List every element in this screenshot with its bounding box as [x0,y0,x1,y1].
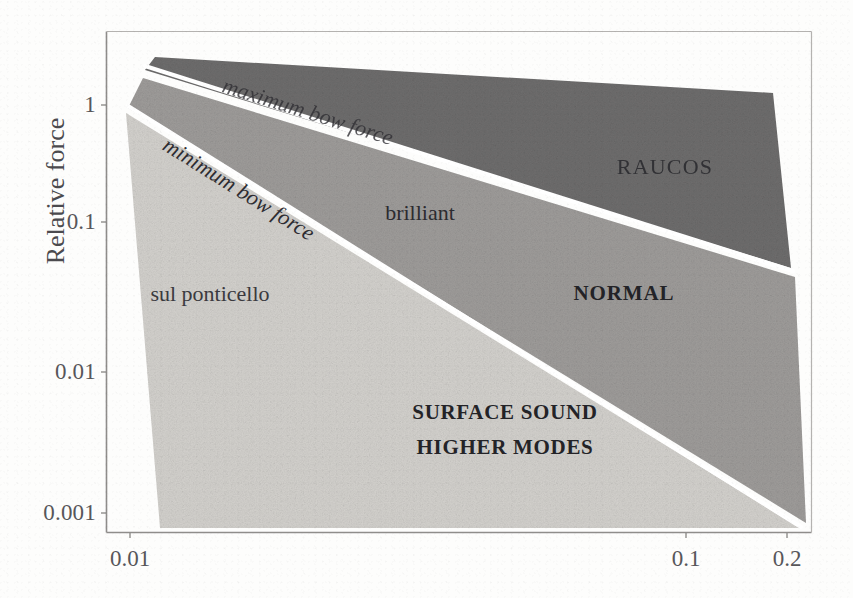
y-axis-label: Relative force [41,91,71,291]
x-tick-label-0.1: 0.1 [636,546,736,572]
y-tick-marks [101,105,106,513]
region-label-surface-sound: SURFACE SOUND [412,400,597,425]
x-tick-label-0.01: 0.01 [70,546,190,572]
x-tick-label-0.2: 0.2 [737,546,837,572]
y-tick-label-0.1: 0.1 [24,209,96,235]
y-tick-label-1: 1 [24,92,96,118]
region-label-higher-modes: HIGHER MODES [416,435,593,460]
plot-canvas [0,0,853,598]
region-label-raucos: RAUCOS [617,154,713,180]
y-tick-label-0.01: 0.01 [24,359,96,385]
region-label-normal: NORMAL [573,281,674,306]
y-tick-label-0.001: 0.001 [14,500,96,526]
region-label-sul-ponticello: sul ponticello [150,281,269,307]
region-label-brilliant: brilliant [385,200,455,226]
x-tick-marks [130,533,787,538]
bow-force-diagram: Relative force 1 0.1 0.01 0.001 0.01 0.1… [0,0,853,598]
